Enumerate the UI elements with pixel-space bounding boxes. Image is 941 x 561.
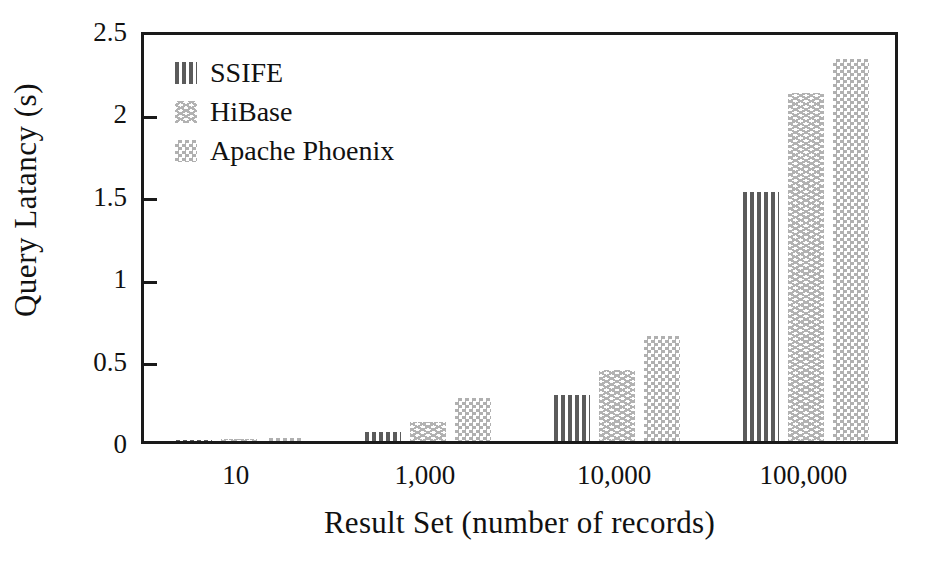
bar-ssife-1000 — [365, 432, 401, 441]
x-axis-title: Result Set (number of records) — [141, 505, 898, 541]
legend-label: HiBase — [210, 98, 292, 126]
legend-item-hibase: HiBase — [175, 92, 505, 131]
checkerboard-swatch — [175, 140, 197, 162]
y-axis-tick-label: 1.5 — [31, 184, 127, 211]
bar-ssife-100000 — [743, 192, 779, 441]
bar-hibase-1000 — [410, 422, 446, 441]
x-axis-tick-label: 1,000 — [330, 462, 520, 489]
bar-ssife-10000 — [554, 395, 590, 441]
vertical-stripes-swatch — [175, 62, 197, 84]
bar-hibase-100000 — [788, 93, 824, 441]
x-axis-tick-label: 10 — [141, 462, 331, 489]
bar-chart-figure: Query Latancy (s) 00.511.522.5 SSIFEHiBa… — [0, 0, 941, 561]
legend-item-ssife: SSIFE — [175, 53, 505, 92]
y-axis-tick-label: 0 — [31, 431, 127, 458]
y-axis-tick-label: 1 — [31, 266, 127, 293]
bar-hibase-10000 — [599, 370, 635, 441]
legend-label: Apache Phoenix — [210, 137, 394, 165]
bar-apache-phoenix-10 — [266, 438, 302, 441]
wavy-lines-swatch — [175, 101, 197, 123]
plot-area: SSIFEHiBaseApache Phoenix — [141, 32, 898, 444]
x-axis-tick-label: 10,000 — [519, 462, 709, 489]
bar-apache-phoenix-10000 — [644, 336, 680, 441]
bar-apache-phoenix-100000 — [833, 59, 869, 441]
legend-label: SSIFE — [210, 59, 283, 87]
bar-hibase-10 — [221, 439, 257, 441]
bar-ssife-10 — [176, 440, 212, 441]
y-axis-tick-label: 2.5 — [31, 19, 127, 46]
legend: SSIFEHiBaseApache Phoenix — [175, 53, 505, 170]
x-axis-tick-label: 100,000 — [708, 462, 898, 489]
legend-item-apache-phoenix: Apache Phoenix — [175, 131, 505, 170]
y-axis-tick-label: 2 — [31, 101, 127, 128]
y-axis-title: Query Latancy (s) — [8, 0, 44, 480]
y-axis-tick-label: 0.5 — [31, 349, 127, 376]
bar-apache-phoenix-1000 — [455, 398, 491, 441]
